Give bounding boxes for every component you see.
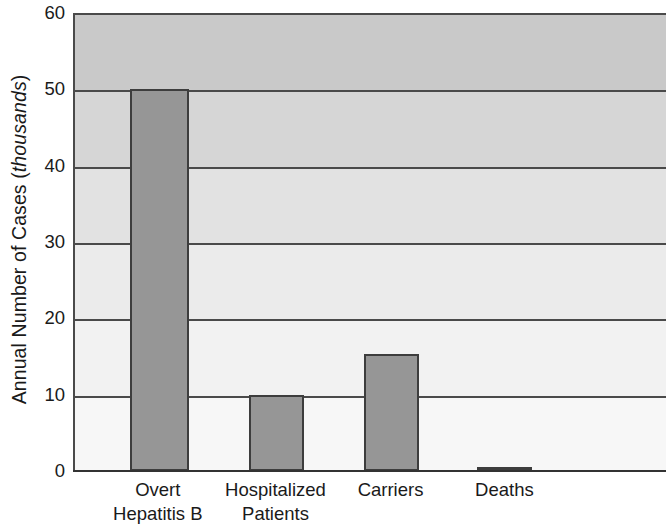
y-axis-title-plain: Annual Number of Cases ( — [9, 172, 31, 404]
x-axis-category-label-line1: Deaths — [475, 479, 534, 500]
x-axis-category-label-line1: Overt — [135, 479, 180, 500]
y-axis-title-text: Annual Number of Cases (thousands) — [9, 74, 32, 404]
y-axis-tick-label: 10 — [33, 386, 65, 405]
x-axis-category-labels: OvertHepatitis BHospitalizedPatientsCarr… — [73, 478, 666, 527]
x-axis-category-label: Deaths — [415, 478, 593, 502]
bar — [249, 395, 304, 471]
bar-chart: Annual Number of Cases (thousands) 01020… — [0, 0, 666, 527]
bar — [130, 89, 189, 471]
y-axis-tick-label: 0 — [33, 462, 65, 481]
plot-area — [73, 13, 666, 471]
y-axis-tick-label: 20 — [33, 309, 65, 328]
y-axis-tick-labels: 0102030405060 — [33, 0, 65, 527]
x-axis-category-label-line1: Carriers — [358, 479, 424, 500]
y-axis-title-italic: thousands — [9, 81, 31, 172]
y-axis-tick-label: 40 — [33, 157, 65, 176]
y-axis-tick-label: 60 — [33, 4, 65, 23]
bar — [364, 354, 419, 471]
x-axis-category-label-line2: Patients — [187, 502, 365, 526]
plot-background-band — [75, 15, 666, 91]
y-axis-tick-label: 30 — [33, 233, 65, 252]
x-axis-line — [73, 470, 666, 472]
y-axis-title-tail: ) — [9, 74, 31, 81]
y-axis-tick-label: 50 — [33, 80, 65, 99]
